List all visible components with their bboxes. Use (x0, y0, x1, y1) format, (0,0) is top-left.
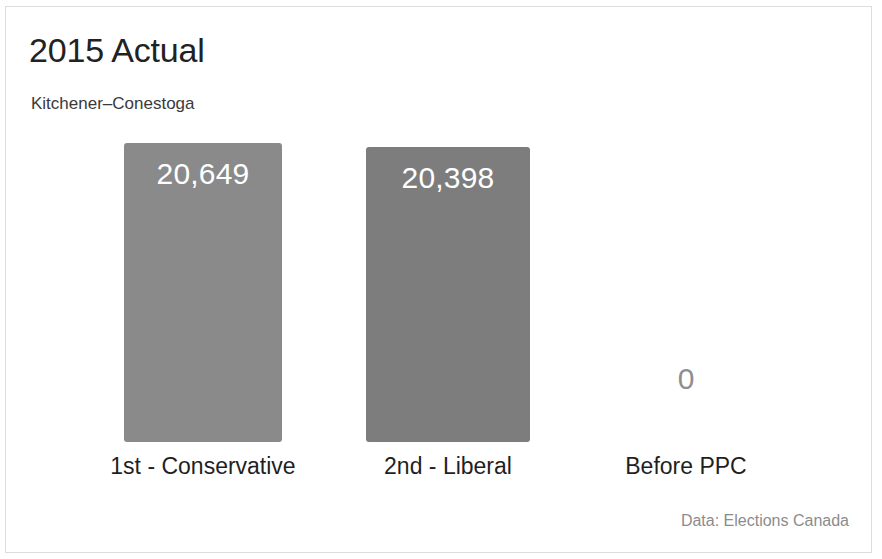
bar-column-2: 0 (606, 127, 766, 442)
bar-value-label-1: 20,398 (366, 161, 530, 195)
bar-stack-0: 20,649 (124, 143, 282, 442)
chart-card: 2015 Actual Kitchener–Conestoga 20,649 2… (5, 6, 872, 553)
category-label-0: 1st - Conservative (79, 453, 327, 480)
chart-subtitle: Kitchener–Conestoga (31, 94, 195, 114)
data-source-footnote: Data: Elections Canada (681, 512, 849, 530)
bar-column-0: 20,649 (124, 127, 282, 442)
bar-value-label-0: 20,649 (124, 157, 282, 191)
bar-0[interactable]: 20,649 (124, 143, 282, 442)
bar-column-1: 20,398 (366, 127, 530, 442)
bar-stack-1: 20,398 (366, 147, 530, 442)
category-label-2: Before PPC (606, 453, 766, 480)
page-title: 2015 Actual (29, 31, 205, 70)
plot-area: 20,649 20,398 0 (6, 127, 871, 442)
bar-value-label-2: 0 (606, 362, 766, 396)
bar-1[interactable]: 20,398 (366, 147, 530, 442)
category-label-1: 2nd - Liberal (348, 453, 548, 480)
